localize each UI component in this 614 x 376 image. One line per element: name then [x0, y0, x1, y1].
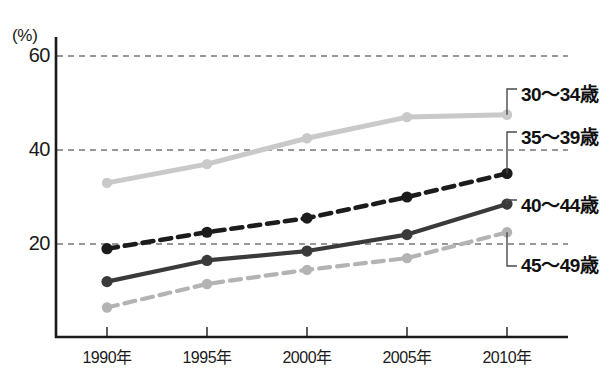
- data-point: [101, 243, 112, 254]
- x-axis-ticks: [107, 327, 507, 337]
- data-point: [402, 112, 412, 122]
- data-point: [302, 265, 312, 275]
- axis-lines: [55, 37, 568, 338]
- data-point: [301, 213, 312, 224]
- data-point: [302, 133, 312, 143]
- data-point: [202, 159, 212, 169]
- data-point: [102, 178, 112, 188]
- data-point: [201, 227, 212, 238]
- data-point: [101, 276, 112, 287]
- x-tick-label-2010: 2010年: [462, 344, 552, 368]
- data-point: [401, 229, 412, 240]
- y-axis-unit-label: (%): [12, 26, 38, 46]
- data-point: [401, 191, 412, 202]
- series-label-40-44: 40〜44歳: [521, 190, 598, 217]
- data-point: [202, 279, 212, 289]
- series-layer: [101, 110, 512, 313]
- y-tick-label-40: 40: [4, 138, 50, 161]
- y-tick-label-60: 60: [4, 44, 50, 67]
- x-tick-label-2005: 2005年: [362, 344, 452, 368]
- series-label-45-49: 45〜49歳: [521, 250, 598, 277]
- series-line-1: [107, 174, 507, 249]
- line-chart-plot: [0, 0, 614, 376]
- x-tick-label-1995: 1995年: [162, 344, 252, 368]
- data-point: [402, 253, 412, 263]
- series-label-35-39: 35〜39歳: [521, 122, 598, 149]
- legend-leader-3: [507, 232, 517, 266]
- series-line-0: [107, 115, 507, 183]
- series-label-30-34: 30〜34歳: [521, 79, 598, 106]
- legend-leader-1: [507, 132, 517, 174]
- x-tick-label-1990: 1990年: [62, 344, 152, 368]
- data-point: [301, 245, 312, 256]
- data-point: [102, 302, 112, 312]
- data-point: [201, 255, 212, 266]
- y-tick-label-20: 20: [4, 232, 50, 255]
- chart-container: (%) 60 40 20 1990年 1995年 2000年 2005年 201…: [0, 0, 614, 376]
- x-tick-label-2000: 2000年: [262, 344, 352, 368]
